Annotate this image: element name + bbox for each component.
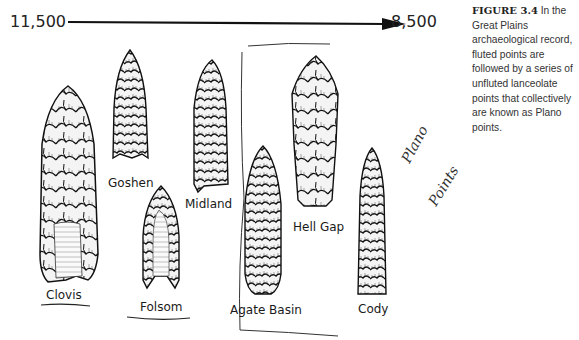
goshen-point-drawing bbox=[110, 48, 150, 164]
handwritten-note-plano: Plano bbox=[398, 123, 431, 166]
hell-gap-point-drawing bbox=[288, 54, 342, 210]
cody-label: Cody bbox=[358, 302, 388, 316]
midland-label: Midland bbox=[185, 197, 232, 211]
clovis-underline bbox=[40, 302, 92, 308]
agate-basin-point-drawing bbox=[241, 144, 285, 296]
figure-number: FIGURE 3.4 bbox=[472, 5, 538, 16]
folsom-label: Folsom bbox=[140, 300, 182, 314]
clovis-label: Clovis bbox=[46, 288, 82, 302]
timeline-start-label: 11,500 bbox=[10, 12, 66, 31]
figure-caption: FIGURE 3.4 In the Great Plains archaeolo… bbox=[472, 4, 578, 135]
timeline-arrow bbox=[66, 14, 426, 34]
hell-gap-label: Hell Gap bbox=[293, 220, 344, 234]
handwritten-note-points: Points bbox=[425, 163, 462, 208]
clovis-point-drawing bbox=[36, 84, 100, 284]
midland-point-drawing bbox=[190, 58, 230, 194]
folsom-underline bbox=[126, 314, 192, 322]
timeline-end-label: 8,500 bbox=[391, 12, 437, 31]
cody-point-drawing bbox=[356, 146, 388, 298]
agate-basin-label: Agate Basin bbox=[230, 303, 302, 317]
folsom-point-drawing bbox=[139, 184, 183, 294]
figure-caption-text: In the Great Plains archaeological recor… bbox=[472, 5, 573, 133]
